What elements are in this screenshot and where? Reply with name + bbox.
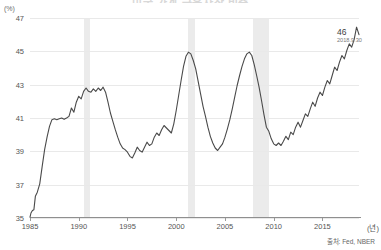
source-note: 출처: Fed, NBER (327, 236, 375, 246)
x-axis-tick-mark (322, 218, 323, 221)
y-axis-tick-label: 47 (0, 14, 24, 23)
end-value-number: 46 (337, 28, 362, 37)
y-axis-tick-label: 41 (0, 114, 24, 123)
x-axis-tick-mark (225, 218, 226, 221)
x-axis-tick-label: 1990 (70, 222, 87, 231)
x-axis-tick-mark (79, 218, 80, 221)
x-axis-unit-label: (년) (367, 222, 379, 233)
x-axis-tick-label: 1985 (22, 222, 39, 231)
y-axis-tick-label: 43 (0, 80, 24, 89)
series-line-path (30, 27, 359, 217)
x-axis-tick-label: 2015 (314, 222, 331, 231)
x-axis-tick-label: 1995 (119, 222, 136, 231)
chart-title: 미국 가계 금융자산 비중 (0, 0, 381, 3)
y-axis-unit-label: (%) (4, 5, 15, 12)
y-axis-tick-label: 37 (0, 180, 24, 189)
chart-container: 미국 가계 금융자산 비중 (%) 47454341393735 1985199… (0, 0, 381, 250)
x-axis-tick-mark (127, 218, 128, 221)
x-axis-tick-label: 2005 (217, 222, 234, 231)
x-axis-tick-label: 2000 (168, 222, 185, 231)
y-axis-tick-label: 35 (0, 214, 24, 223)
end-value-annotation: 46 2018.9.30 (337, 28, 362, 44)
end-value-date: 2018.9.30 (337, 38, 362, 44)
y-axis-tick-label: 39 (0, 147, 24, 156)
x-axis-tick-mark (274, 218, 275, 221)
plot-area: 47454341393735 1985199019952000200520102… (30, 18, 359, 218)
y-axis-tick-label: 45 (0, 47, 24, 56)
series-line-group (30, 18, 359, 218)
x-axis-tick-mark (30, 218, 31, 221)
x-axis-tick-mark (176, 218, 177, 221)
x-axis-tick-label: 2010 (265, 222, 282, 231)
